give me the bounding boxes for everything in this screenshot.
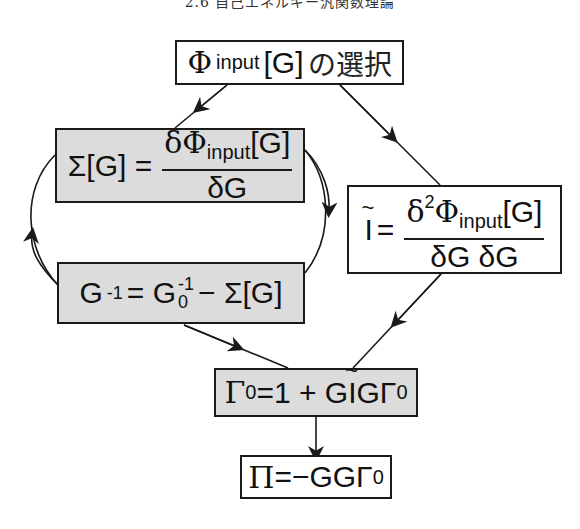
choose-phi-formula: Φinput[G]の選択: [188, 43, 392, 83]
bethe-salpeter-box: Γ0=1 + GIGΓ0: [214, 368, 418, 417]
polarization-formula: Π=−GGΓ0: [248, 460, 384, 495]
zero-sub: 0: [396, 381, 407, 404]
zero-sub: 0: [373, 466, 384, 489]
g-argument: [G]: [250, 126, 290, 159]
equals-one-plus-g: =1 + G: [256, 376, 348, 410]
input-subscript: input: [216, 51, 259, 74]
phi: Φ: [434, 194, 459, 229]
g-argument: [G]: [502, 195, 542, 228]
vertex-kernel-formula: I = δ2Φinput[G] δG δG: [365, 185, 545, 274]
g: G: [80, 276, 103, 310]
zero-sub: 0: [245, 381, 256, 404]
gamma: Γ: [224, 375, 245, 410]
functional-derivative: δΦinput[G] δG: [162, 126, 292, 205]
g-gamma: GΓ: [357, 376, 397, 410]
dyson-formula: G-1 = G-10 − Σ[G]: [80, 275, 283, 311]
denominator: δG: [207, 171, 247, 205]
self-energy-box: Σ[G] = δΦinput[G] δG: [55, 128, 305, 203]
equals-minus-gg-gamma: =−GGΓ: [274, 460, 372, 494]
phi-symbol: Φ: [188, 45, 213, 80]
polarization-box: Π=−GGΓ0: [240, 455, 392, 499]
equals: =: [377, 213, 395, 247]
choose-phi-input-box: Φinput[G]の選択: [175, 40, 404, 85]
g-argument: [G]: [263, 46, 303, 80]
minus-sigma: − Σ[G]: [198, 276, 282, 310]
vertex-kernel-box: I = δ2Φinput[G] δG δG: [347, 185, 562, 274]
i-tilde: I: [365, 213, 373, 247]
delta: δ: [164, 125, 182, 160]
numerator: δΦinput[G]: [162, 126, 292, 171]
zero-sub: 0: [178, 293, 194, 311]
input-subscript: input: [459, 210, 502, 232]
second-derivative: δ2Φinput[G] δG δG: [404, 185, 544, 274]
delta: δ: [406, 194, 424, 229]
selection-label: の選択: [308, 43, 392, 83]
i-tilde: I: [348, 376, 356, 410]
phi: Φ: [182, 125, 207, 160]
pi: Π: [248, 460, 274, 495]
equals-g: = G: [127, 276, 176, 310]
denominator: δG δG: [430, 240, 518, 274]
inverse-sup: -1: [107, 283, 123, 304]
sigma-lhs: Σ[G] =: [68, 149, 152, 183]
gamma-formula: Γ0=1 + GIGΓ0: [224, 375, 407, 410]
power-2: 2: [424, 192, 434, 212]
input-subscript: input: [207, 141, 250, 163]
self-energy-formula: Σ[G] = δΦinput[G] δG: [68, 126, 292, 205]
dyson-equation-box: G-1 = G-10 − Σ[G]: [57, 262, 305, 324]
inverse-sup-2: -1: [178, 275, 194, 293]
numerator: δ2Φinput[G]: [404, 185, 544, 240]
